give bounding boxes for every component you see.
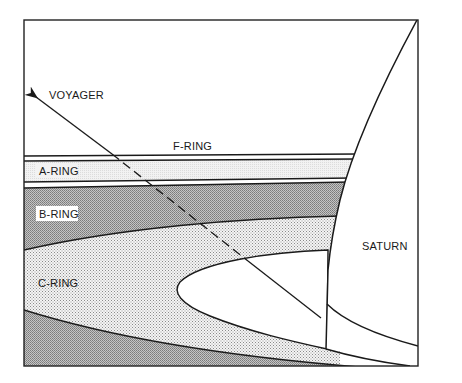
label-b-ring: B-RING xyxy=(39,208,79,220)
label-f-ring: F-RING xyxy=(173,140,212,152)
saturn-rings-diagram: VOYAGER F-RING A-RING B-RING C-RING SATU… xyxy=(0,0,462,383)
label-c-ring: C-RING xyxy=(38,277,78,289)
label-a-ring: A-RING xyxy=(39,165,79,177)
label-saturn: SATURN xyxy=(362,240,408,252)
label-voyager: VOYAGER xyxy=(49,89,104,101)
